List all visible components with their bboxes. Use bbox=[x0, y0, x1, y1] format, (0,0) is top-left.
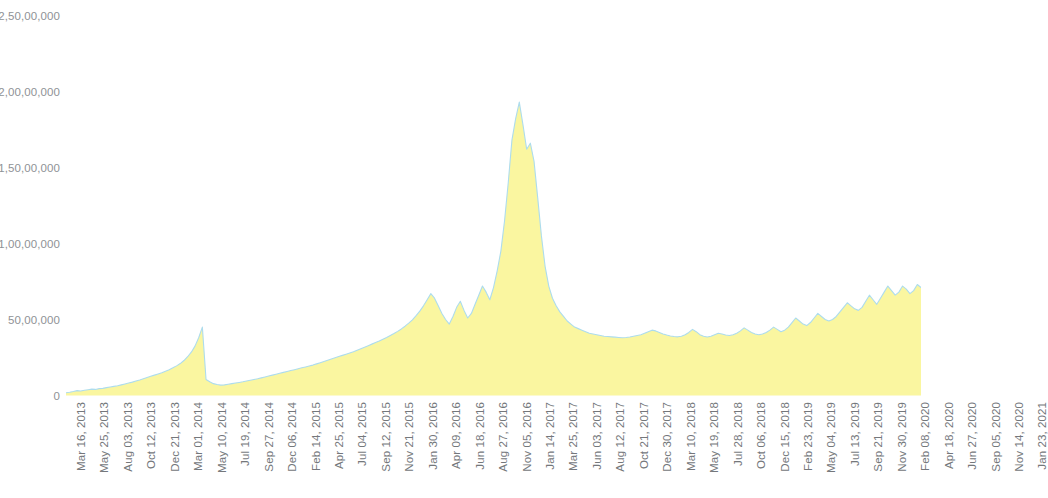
y-tick-label: 2,00,00,000 bbox=[0, 86, 60, 98]
x-tick-label: Oct 06, 2018 bbox=[755, 402, 767, 469]
x-tick-label: Jun 18, 2016 bbox=[474, 402, 486, 470]
x-tick-label: Apr 25, 2015 bbox=[333, 402, 345, 469]
x-tick-label: Jan 30, 2016 bbox=[427, 402, 439, 470]
x-tick-label: Dec 15, 2018 bbox=[779, 402, 791, 472]
x-tick-label: Jun 27, 2020 bbox=[966, 402, 978, 470]
y-tick-label: 2,50,00,000 bbox=[0, 10, 60, 22]
y-axis: 2,50,00,0002,00,00,0001,50,00,0001,00,00… bbox=[0, 0, 68, 498]
x-tick-label: Nov 21, 2015 bbox=[403, 402, 415, 472]
x-tick-label: Nov 05, 2016 bbox=[521, 402, 533, 472]
x-tick-label: Apr 18, 2020 bbox=[943, 402, 955, 469]
x-tick-label: Sep 12, 2015 bbox=[380, 402, 392, 472]
x-tick-label: Oct 21, 2017 bbox=[638, 402, 650, 469]
x-tick-label: Feb 08, 2020 bbox=[919, 402, 931, 471]
x-tick-label: Mar 10, 2018 bbox=[685, 402, 697, 471]
y-tick-label: 1,00,00,000 bbox=[0, 238, 60, 250]
x-tick-label: Mar 16, 2013 bbox=[75, 402, 87, 471]
x-tick-label: Jul 13, 2019 bbox=[849, 402, 861, 466]
x-tick-label: May 04, 2019 bbox=[825, 402, 837, 473]
x-tick-label: May 25, 2013 bbox=[98, 402, 110, 473]
x-axis: Mar 16, 2013May 25, 2013Aug 03, 2013Oct … bbox=[66, 400, 921, 498]
x-tick-label: Sep 21, 2019 bbox=[872, 402, 884, 472]
x-tick-label: Feb 14, 2015 bbox=[310, 402, 322, 471]
y-tick-label: 1,50,00,000 bbox=[0, 162, 60, 174]
y-tick-label: 50,00,000 bbox=[8, 314, 60, 326]
x-tick-label: Dec 21, 2013 bbox=[169, 402, 181, 472]
x-tick-label: Jan 23, 2021 bbox=[1036, 402, 1048, 470]
x-tick-label: Feb 23, 2019 bbox=[802, 402, 814, 471]
chart-svg bbox=[66, 0, 921, 400]
x-tick-label: Jul 19, 2014 bbox=[239, 402, 251, 466]
y-tick-label: 0 bbox=[54, 390, 61, 402]
x-tick-label: May 19, 2018 bbox=[708, 402, 720, 473]
x-tick-label: May 10, 2014 bbox=[216, 402, 228, 473]
plot-area bbox=[66, 0, 921, 400]
x-tick-label: Oct 12, 2013 bbox=[145, 402, 157, 469]
x-tick-label: Jul 28, 2018 bbox=[732, 402, 744, 466]
x-tick-label: Sep 27, 2014 bbox=[263, 402, 275, 472]
x-tick-label: Aug 03, 2013 bbox=[122, 402, 134, 472]
x-tick-label: Jun 03, 2017 bbox=[591, 402, 603, 470]
x-tick-label: Apr 09, 2016 bbox=[450, 402, 462, 469]
x-tick-label: Jul 04, 2015 bbox=[356, 402, 368, 466]
x-tick-label: Dec 06, 2014 bbox=[286, 402, 298, 472]
x-tick-label: Jan 14, 2017 bbox=[544, 402, 556, 470]
x-tick-label: Aug 27, 2016 bbox=[497, 402, 509, 472]
x-tick-label: Nov 14, 2020 bbox=[1013, 402, 1025, 472]
x-tick-label: Mar 25, 2017 bbox=[567, 402, 579, 471]
series-area-fill bbox=[66, 102, 921, 395]
x-tick-label: Mar 01, 2014 bbox=[192, 402, 204, 471]
x-tick-label: Nov 30, 2019 bbox=[896, 402, 908, 472]
x-tick-label: Sep 05, 2020 bbox=[990, 402, 1002, 472]
x-tick-label: Aug 12, 2017 bbox=[614, 402, 626, 472]
x-tick-label: Dec 30, 2017 bbox=[661, 402, 673, 472]
